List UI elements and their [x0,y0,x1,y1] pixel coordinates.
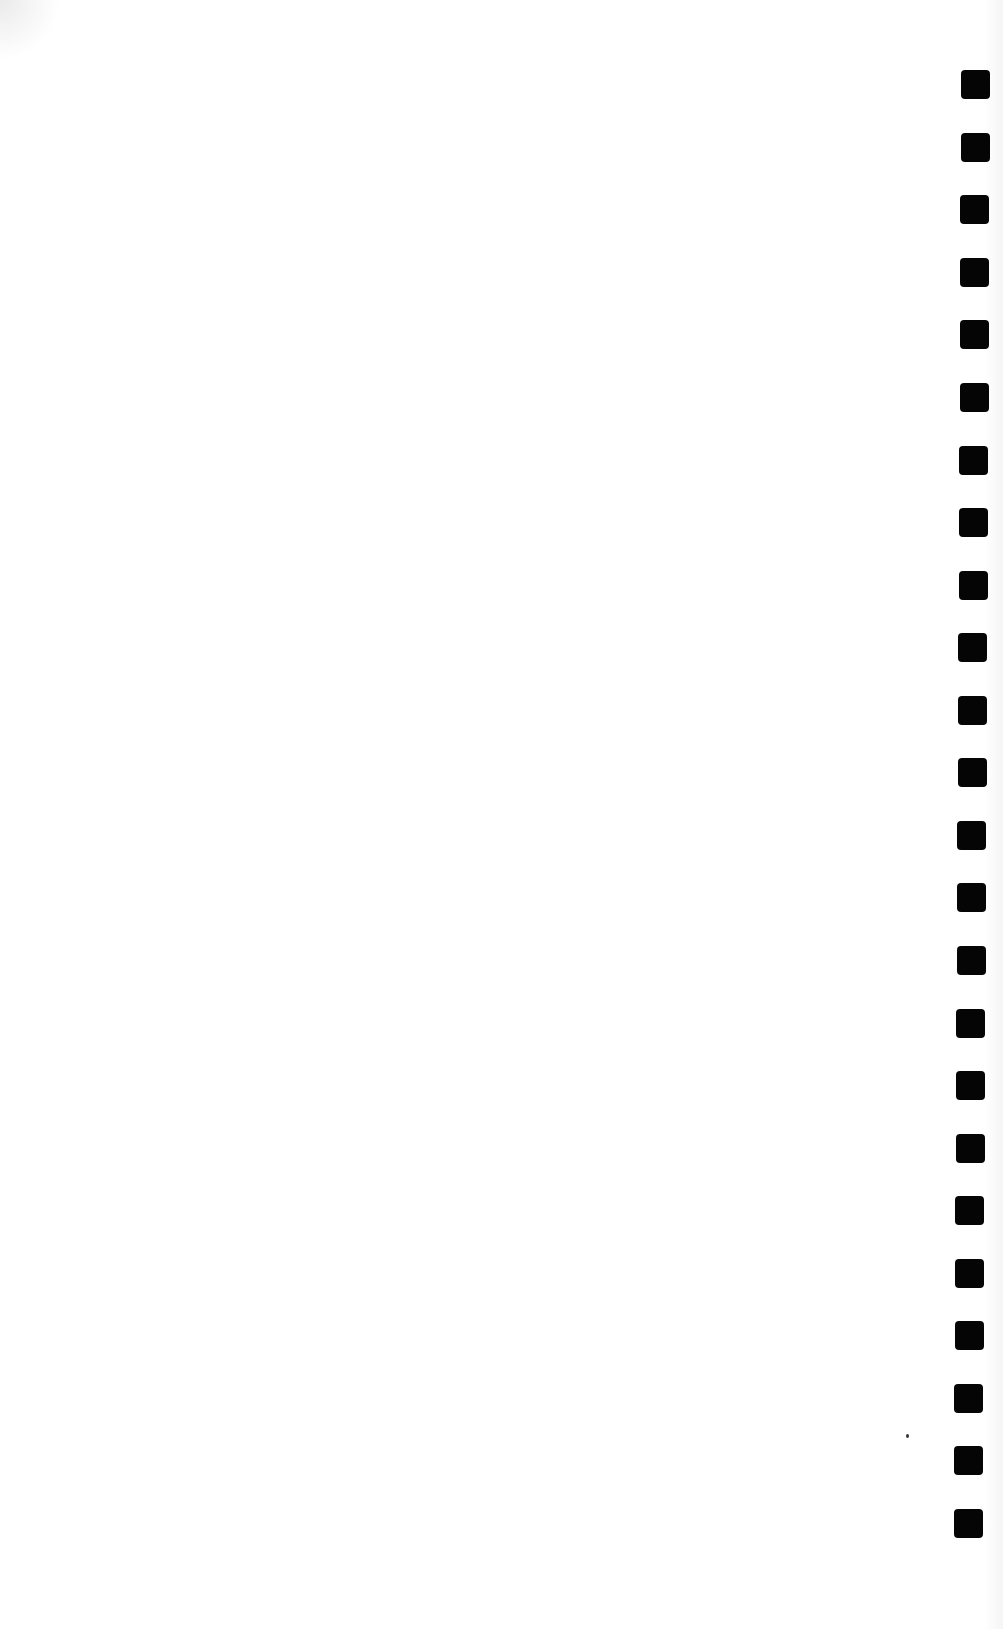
binding-hole [960,195,989,224]
binding-hole [957,821,986,850]
binding-hole [957,883,986,912]
binding-hole [955,1259,984,1288]
binding-hole [958,633,987,662]
binding-hole [954,1509,983,1538]
binding-hole [959,446,988,475]
binding-hole [960,320,989,349]
binding-hole [954,1384,983,1413]
binding-hole [959,571,988,600]
binding-hole [960,258,989,287]
binding-hole [958,696,987,725]
binding-hole [958,758,987,787]
binding-hole [961,70,990,99]
binding-hole [961,133,990,162]
binding-hole [955,1321,984,1350]
binding-hole [956,1071,985,1100]
binding-hole [956,1009,985,1038]
binding-hole [960,383,989,412]
binding-hole [954,1446,983,1475]
scan-speck [906,1434,909,1438]
binding-hole-column [0,0,1003,1629]
binding-hole [957,946,986,975]
binding-hole [956,1134,985,1163]
binding-hole [959,508,988,537]
blank-document-page [0,0,1003,1629]
binding-hole [955,1196,984,1225]
